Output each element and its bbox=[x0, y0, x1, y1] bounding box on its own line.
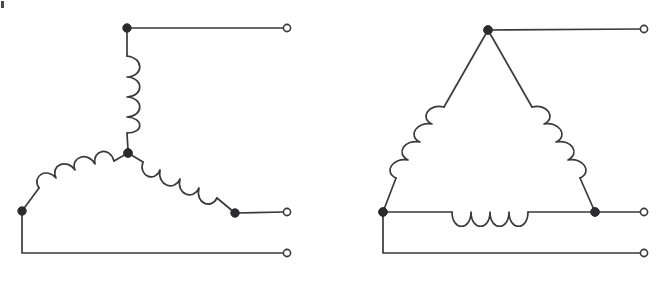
wye-terminal-1[interactable] bbox=[283, 24, 290, 31]
delta-lead-phase-1 bbox=[488, 29, 641, 30]
wye-node-center-neutral bbox=[124, 149, 133, 158]
wye-lead-phase-3 bbox=[22, 211, 284, 253]
wye-coil-top bbox=[127, 56, 140, 133]
wye-stub-top-lower bbox=[127, 133, 128, 150]
wye-node-left bbox=[18, 207, 26, 215]
three-phase-connections-diagram bbox=[0, 0, 669, 283]
delta-node-bottom-right bbox=[591, 208, 600, 217]
wye-terminal-2[interactable] bbox=[283, 208, 290, 215]
delta-coil-right bbox=[532, 106, 586, 178]
figure-canvas bbox=[0, 0, 669, 283]
scan-artifact-mark bbox=[1, 1, 4, 8]
delta-edge-left-upper bbox=[444, 30, 488, 107]
delta-edge-left-lower bbox=[383, 178, 396, 212]
delta-terminal-2[interactable] bbox=[640, 208, 647, 215]
delta-lead-phase-3 bbox=[383, 212, 641, 253]
delta-terminal-3[interactable] bbox=[640, 249, 647, 256]
delta-node-bottom-left bbox=[379, 208, 388, 217]
delta-coil-bottom bbox=[452, 212, 528, 226]
delta-edge-right-upper bbox=[488, 30, 532, 107]
wye-coil-right bbox=[142, 162, 217, 204]
delta-coil-left bbox=[390, 106, 444, 178]
delta-mesh-connection bbox=[379, 25, 648, 256]
wye-node-right bbox=[231, 209, 239, 217]
delta-edge-right-lower bbox=[580, 178, 595, 212]
delta-node-apex bbox=[484, 26, 493, 35]
wye-coil-left bbox=[37, 151, 114, 188]
wye-star-connection bbox=[18, 24, 291, 257]
delta-terminal-1[interactable] bbox=[640, 25, 647, 32]
wye-node-top bbox=[123, 24, 131, 32]
wye-terminal-3[interactable] bbox=[283, 249, 290, 256]
wye-lead-phase-2 bbox=[235, 212, 284, 213]
